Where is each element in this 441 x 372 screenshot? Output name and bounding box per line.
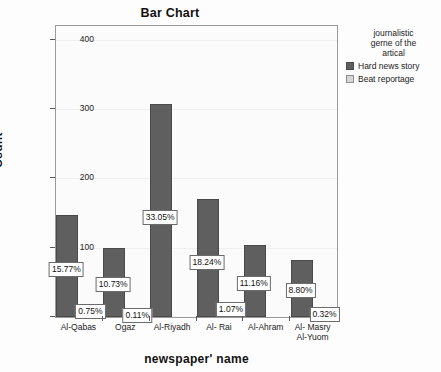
x-axis-tick-mark [242, 316, 243, 321]
gridline [56, 178, 337, 179]
legend: journalistic gerne of the artical Hard n… [346, 28, 441, 84]
legend-item-label: Hard news story [358, 61, 419, 71]
bar-data-label: 33.05% [143, 210, 178, 225]
bar-data-label: 18.24% [189, 255, 224, 270]
x-axis-tick-label: Al-Qabas [61, 323, 96, 333]
bar-data-label: 0.11% [123, 308, 152, 323]
legend-title: journalistic gerne of the artical [346, 28, 441, 58]
bar-data-label: 1.07% [216, 302, 246, 317]
y-axis-tick-mark [50, 108, 55, 109]
plot-inner [56, 26, 337, 317]
legend-item-hard-news-story[interactable]: Hard news story [346, 61, 441, 71]
chart-title: Bar Chart [0, 6, 340, 20]
x-axis-tick-label: Al-Ahram [248, 323, 283, 333]
plot-area [55, 25, 338, 318]
x-axis-tick-label: Al- Masry Al-Yuom [295, 323, 331, 342]
bar-data-label: 8.80% [286, 283, 316, 298]
x-axis-tick-mark [196, 316, 197, 321]
y-axis-tick-label: 400 [64, 34, 94, 44]
bar-chart-figure: Bar Chart Count newspaper' name journali… [0, 0, 441, 372]
bar-data-label: 15.77% [49, 262, 84, 277]
legend-item-label: Beat reportage [358, 74, 414, 84]
y-axis-tick-mark [50, 177, 55, 178]
y-axis-tick-label: 300 [64, 103, 94, 113]
legend-swatch-icon [346, 62, 354, 70]
bar-data-label: 0.32% [310, 307, 340, 322]
gridline [56, 109, 337, 110]
x-axis-tick-label: Ogaz [115, 323, 135, 333]
x-axis-tick-mark [102, 316, 103, 321]
y-axis-tick-label: 100 [64, 242, 94, 252]
x-axis-title: newspaper' name [55, 352, 338, 366]
y-axis-title: Count [0, 132, 4, 168]
bar-data-label: 10.73% [96, 277, 131, 292]
x-axis-tick-mark [289, 316, 290, 321]
y-axis-tick-label: 200 [64, 172, 94, 182]
y-axis-tick-mark [50, 316, 55, 317]
legend-swatch-icon [346, 75, 354, 83]
x-axis-tick-label: Al- Rai [206, 323, 232, 333]
gridline [56, 40, 337, 41]
x-axis-tick-mark [149, 316, 150, 321]
bar-data-label: 11.16% [237, 276, 271, 291]
legend-item-beat-reportage[interactable]: Beat reportage [346, 74, 441, 84]
y-axis-tick-mark [50, 247, 55, 248]
x-axis-tick-label: Al-Riyadh [154, 323, 191, 333]
y-axis-tick-mark [50, 39, 55, 40]
